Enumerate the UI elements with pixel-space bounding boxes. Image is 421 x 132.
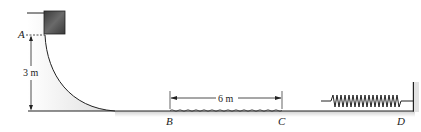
point-label-c: C — [278, 115, 286, 127]
arrow-right-icon — [275, 96, 282, 100]
wall-shading — [414, 82, 419, 112]
point-label-d: D — [396, 115, 405, 127]
arrow-left-icon — [171, 96, 178, 100]
ramp-shading — [27, 13, 115, 111]
height-label: 3 m — [23, 67, 39, 78]
point-label-a: A — [17, 28, 25, 40]
diagram-canvas: 3 m 6 m A B C D — [0, 0, 421, 132]
ground-shading — [115, 111, 415, 117]
rough-section-label: 6 m — [218, 93, 234, 104]
block — [44, 11, 65, 34]
point-label-b: B — [166, 115, 173, 127]
spring — [321, 95, 413, 107]
